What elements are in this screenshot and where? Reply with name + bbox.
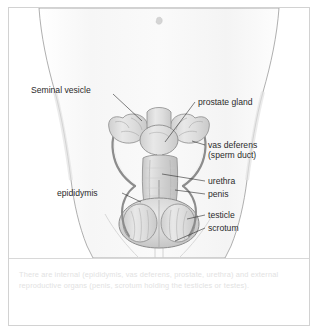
figure-card: Seminal vesicle prostate gland vas defer…: [8, 7, 310, 326]
anatomy-illustration: Seminal vesicle prostate gland vas defer…: [9, 8, 309, 258]
label-epididymis: epididymis: [57, 188, 98, 198]
penis-shaft: [142, 155, 177, 204]
figure-caption: There are internal (epididymis, vas defe…: [19, 269, 299, 291]
navel-mark: [156, 17, 162, 24]
prostate-gland-shape: [140, 125, 178, 155]
reproductive-organs: [109, 108, 210, 249]
label-urethra: urethra: [208, 176, 235, 186]
label-scrotum: scrotum: [208, 223, 239, 233]
label-seminal-vesicle: Seminal vesicle: [31, 85, 91, 95]
label-testicle: testicle: [208, 210, 235, 220]
label-vas-deferens: vas deferens: [208, 140, 257, 150]
screenshot-root: Seminal vesicle prostate gland vas defer…: [0, 0, 319, 334]
label-vas-deferens-sub: (sperm duct): [208, 150, 256, 160]
label-prostate-gland: prostate gland: [198, 97, 253, 107]
anatomy-svg: Seminal vesicle prostate gland vas defer…: [9, 8, 309, 258]
label-penis: penis: [208, 189, 229, 199]
caption-divider: [9, 258, 309, 259]
